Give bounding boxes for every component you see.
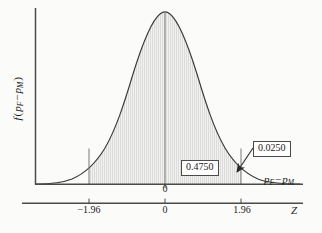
y-axis-label-p1: p (11, 106, 23, 112)
tail-callout-arrow (237, 148, 253, 172)
tail-area-callout: 0.0250 (253, 141, 291, 157)
x-axis-tick-label-zero: 0 (155, 184, 175, 194)
y-axis-label-p2: p (11, 88, 23, 94)
y-axis-label-open: ( (11, 112, 23, 118)
z-axis-tick-label-pos196: 1.96 (224, 205, 260, 215)
y-axis-label-sub-m: M (16, 82, 25, 88)
chart-canvas (0, 0, 322, 233)
z-axis-label: Z (284, 205, 304, 216)
y-axis-label-sub-f: F (16, 102, 25, 107)
y-axis-label-f: f (11, 117, 23, 120)
normal-distribution-figure: f(pF−pM) pF−pM 0 −1.96 0 1.96 Z 0.4750 0… (0, 0, 322, 233)
y-axis-label: f(pF−pM) (12, 58, 25, 138)
z-axis-tick-label-neg196: −1.96 (68, 205, 110, 215)
x-axis-label: pF−pM (264, 174, 294, 187)
y-axis-label-minus: − (11, 93, 23, 101)
center-area-callout: 0.4750 (181, 160, 219, 176)
z-axis-tick-label-zero: 0 (155, 205, 175, 215)
x-axis-label-sub-m: M (288, 178, 294, 187)
y-axis-label-close: ) (11, 76, 23, 82)
